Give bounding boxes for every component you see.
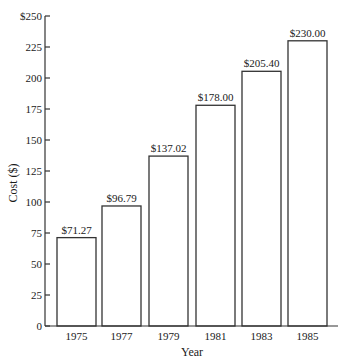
bar-chart: 0255075100125150175200225$250 $71.27$96.…: [0, 0, 352, 364]
bars: $71.27$96.79$137.02$178.00$205.40$230.00: [57, 27, 327, 326]
x-axis-ticks: 197519771979198119831985: [66, 330, 320, 342]
x-tick-label: 1975: [66, 330, 89, 342]
y-axis-title: Cost ($): [6, 163, 20, 202]
x-tick-label: 1981: [205, 330, 227, 342]
y-tick-label: 75: [31, 227, 43, 239]
bar: [149, 156, 188, 326]
y-tick-label: 100: [26, 196, 43, 208]
y-tick-label: $250: [20, 10, 43, 22]
x-tick-label: 1979: [158, 330, 181, 342]
x-axis-title: Year: [181, 345, 203, 359]
data-label: $71.27: [61, 224, 92, 236]
x-tick-label: 1983: [251, 330, 274, 342]
y-tick-label: 0: [37, 320, 43, 332]
y-tick-label: 125: [26, 165, 43, 177]
y-tick-label: 200: [26, 72, 43, 84]
bar: [102, 206, 141, 326]
y-tick-label: 175: [26, 103, 43, 115]
bar: [242, 71, 281, 326]
x-tick-label: 1977: [111, 330, 134, 342]
data-label: $137.02: [151, 142, 187, 154]
data-label: $178.00: [198, 91, 234, 103]
bar: [57, 238, 96, 326]
data-label: $205.40: [244, 57, 280, 69]
data-label: $230.00: [290, 27, 326, 39]
y-tick-label: 225: [26, 41, 43, 53]
y-tick-label: 50: [31, 258, 43, 270]
bar: [196, 105, 235, 326]
x-tick-label: 1985: [297, 330, 320, 342]
data-label: $96.79: [106, 192, 137, 204]
y-tick-label: 25: [31, 289, 43, 301]
y-tick-label: 150: [26, 134, 43, 146]
bar: [288, 41, 327, 326]
